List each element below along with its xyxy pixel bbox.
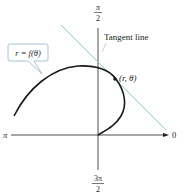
right-label: 0 xyxy=(172,130,176,140)
point-label: (r, θ) xyxy=(119,73,136,83)
bottom-label-denominator: 2 xyxy=(96,185,100,194)
tangent-leader-line xyxy=(102,43,106,52)
bottom-label-numerator: 3π xyxy=(94,174,102,183)
curve-label: r = f(θ) xyxy=(15,48,41,58)
left-label: π xyxy=(3,130,8,140)
polar-curve xyxy=(14,66,125,135)
axis-arrow-icon xyxy=(163,133,169,137)
top-label-numerator: π xyxy=(96,3,101,12)
tangent-label: Tangent line xyxy=(104,32,149,42)
top-label-denominator: 2 xyxy=(96,14,100,23)
polar-diagram: r = f(θ) Tangent line (r, θ) π 2 3π 2 π … xyxy=(0,0,184,196)
point-marker xyxy=(113,77,117,81)
